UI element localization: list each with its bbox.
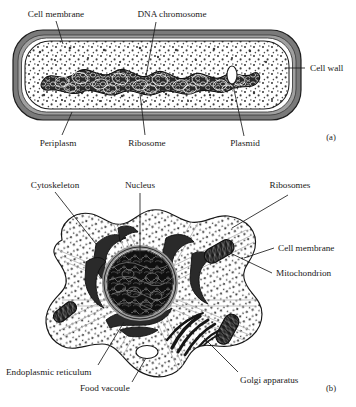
label-mitochondrion: Mitochondrion	[276, 268, 332, 278]
label-golgi-apparatus: Golgi apparatus	[240, 375, 299, 385]
label-nucleus: Nucleus	[125, 180, 156, 190]
label-plasmid: Plasmid	[230, 138, 260, 148]
panel-marker-b: (b)	[326, 383, 336, 393]
label-ribosome: Ribosome	[128, 138, 165, 148]
plasmid-shape	[227, 66, 237, 84]
label-cytoskeleton: Cytoskeleton	[31, 180, 80, 190]
label-ribosomes: Ribosomes	[270, 180, 311, 190]
food-vacuole-shape	[136, 346, 158, 359]
label-periplasm: Periplasm	[40, 138, 77, 148]
label-cell-membrane-b: Cell membrane	[278, 243, 334, 253]
label-endoplasmic-reticulum: Endoplasmic reticulum	[6, 367, 91, 377]
label-cell-membrane-a: Cell membrane	[28, 9, 84, 19]
label-food-vacuole: Food vacoule	[80, 383, 130, 393]
label-dna-chromosome: DNA chromosome	[137, 9, 206, 19]
panel-marker-a: (a)	[326, 132, 336, 142]
cell-comparison-figure: Cell membrane DNA chromosome Cell wall P…	[0, 0, 356, 407]
label-cell-wall: Cell wall	[310, 63, 344, 73]
